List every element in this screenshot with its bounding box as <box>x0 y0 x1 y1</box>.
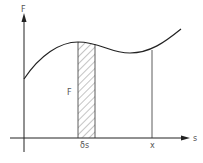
x-axis-label: s <box>193 134 197 143</box>
x-axis-arrow-icon <box>181 136 190 141</box>
strip-width-label: δs <box>80 141 89 150</box>
work-done-diagram: F s F δs x <box>0 0 203 163</box>
x-mark-label: x <box>150 141 155 150</box>
y-axis-arrow-icon <box>22 13 27 22</box>
y-axis-label: F <box>21 5 26 14</box>
force-curve <box>24 29 181 79</box>
hatched-strip <box>78 30 95 138</box>
strip-force-label: F <box>67 88 72 97</box>
